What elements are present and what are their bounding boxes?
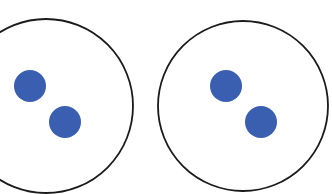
diagram-canvas	[0, 0, 332, 194]
blue-dot	[49, 106, 81, 138]
right-container	[158, 21, 328, 191]
blue-dot	[210, 70, 242, 102]
blue-dot	[14, 70, 46, 102]
container-circle	[0, 19, 133, 193]
left-container	[0, 19, 133, 193]
container-circle	[158, 21, 328, 191]
blue-dot	[245, 106, 277, 138]
